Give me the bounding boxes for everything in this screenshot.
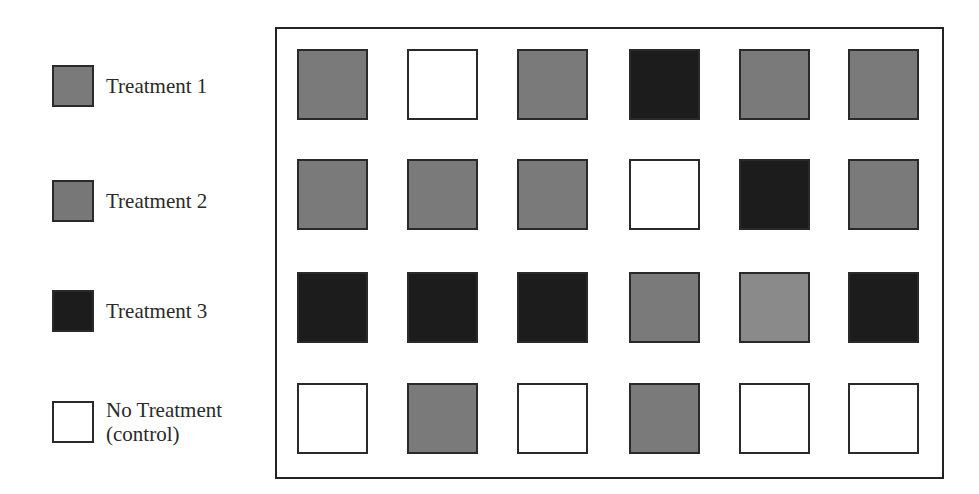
swatch-treatment-2 (52, 180, 94, 222)
plot-cell (629, 49, 700, 120)
plot-cell (629, 272, 700, 343)
plot-cell (739, 383, 810, 454)
plot-grid-frame (275, 27, 944, 479)
plot-cell (407, 272, 478, 343)
plot-cell (297, 272, 368, 343)
plot-cell (517, 272, 588, 343)
legend-label: No Treatment (control) (106, 398, 222, 446)
legend-label: Treatment 3 (106, 299, 207, 323)
plot-cell (848, 383, 919, 454)
plot-cell (297, 159, 368, 230)
legend-label: Treatment 1 (106, 74, 207, 98)
legend-label: Treatment 2 (106, 189, 207, 213)
legend-item-treatment-2: Treatment 2 (52, 180, 207, 222)
plot-cell (848, 159, 919, 230)
plot-cell (739, 49, 810, 120)
plot-cell (739, 272, 810, 343)
plot-cell (297, 383, 368, 454)
plot-cell (407, 159, 478, 230)
plot-cell (629, 383, 700, 454)
plot-cell (848, 272, 919, 343)
swatch-treatment-1 (52, 65, 94, 107)
plot-cell (517, 383, 588, 454)
plot-cell (739, 159, 810, 230)
plot-cell (629, 159, 700, 230)
swatch-no-treatment (52, 401, 94, 443)
swatch-treatment-3 (52, 290, 94, 332)
plot-cell (297, 49, 368, 120)
legend-item-no-treatment: No Treatment (control) (52, 398, 222, 446)
plot-cell (407, 49, 478, 120)
plot-cell (407, 383, 478, 454)
plot-cell (848, 49, 919, 120)
legend-item-treatment-3: Treatment 3 (52, 290, 207, 332)
legend-item-treatment-1: Treatment 1 (52, 65, 207, 107)
plot-cell (517, 49, 588, 120)
plot-cell (517, 159, 588, 230)
